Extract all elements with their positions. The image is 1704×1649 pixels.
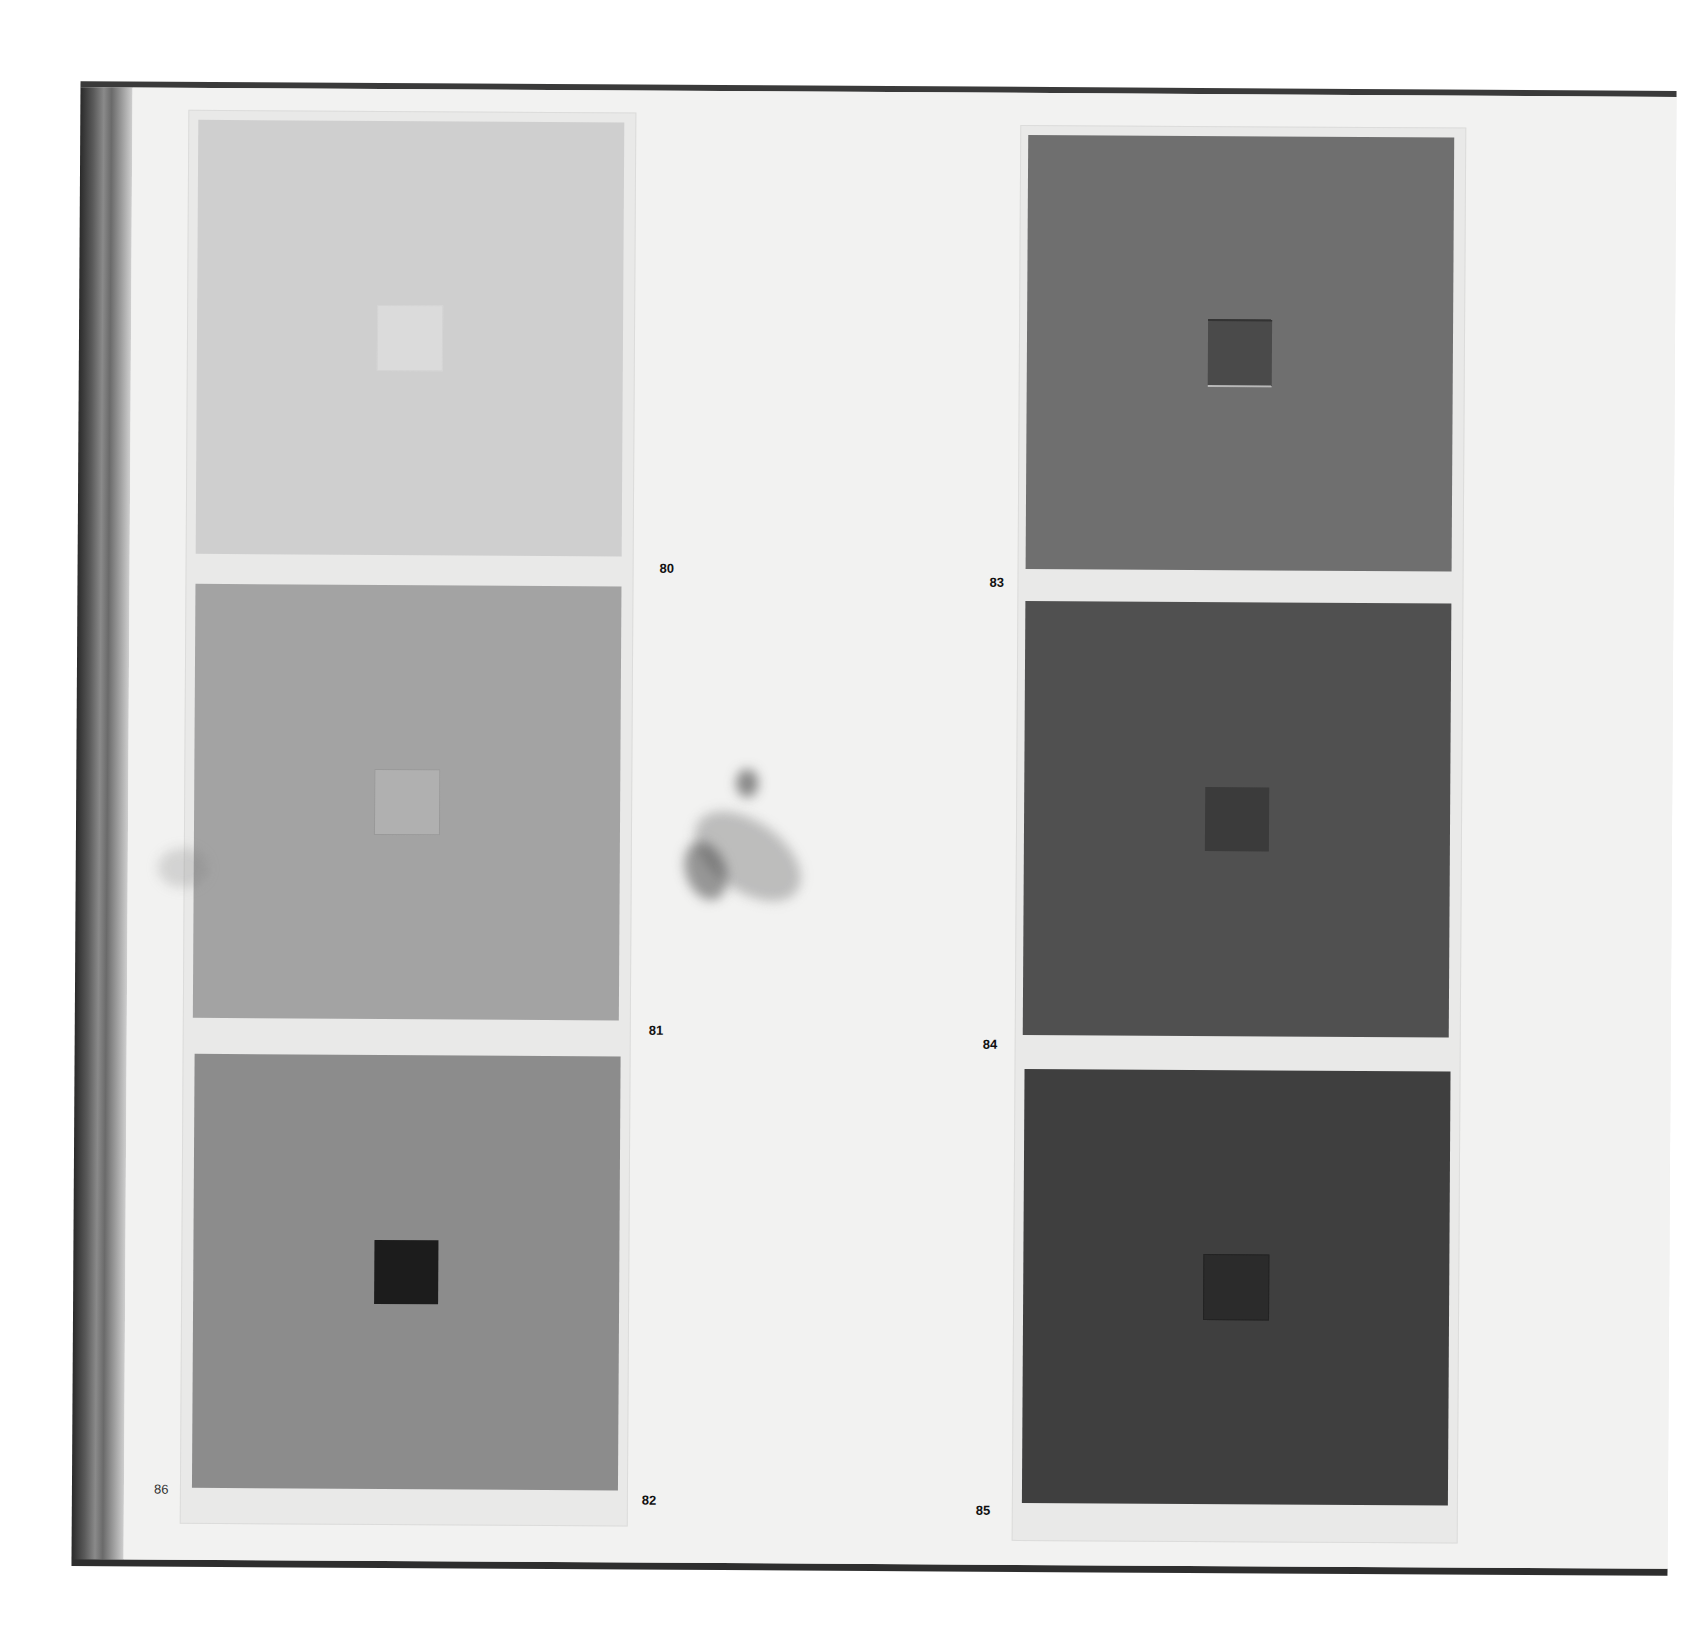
plate-number-81: 81: [649, 1023, 664, 1038]
plate-81: [193, 584, 622, 1021]
page-number: 86: [154, 1482, 169, 1497]
plate-82: [192, 1054, 621, 1491]
book-spine: [72, 87, 133, 1559]
inner-square: [374, 1240, 438, 1304]
inner-square: [374, 769, 440, 835]
ink-smudge: [158, 848, 208, 888]
plate-84: [1023, 601, 1452, 1038]
plate-83: [1026, 135, 1455, 572]
inner-square: [377, 305, 443, 371]
plate-85: [1022, 1069, 1451, 1506]
plate-number-85: 85: [976, 1503, 991, 1518]
inner-square: [1205, 787, 1269, 851]
plate-number-80: 80: [660, 561, 675, 576]
book: 80 81 82 83 84 85 86: [71, 81, 1676, 1576]
plate-number-84: 84: [983, 1037, 998, 1052]
ink-smudge: [736, 769, 758, 797]
inner-square: [1208, 319, 1272, 387]
plate-number-82: 82: [642, 1493, 657, 1508]
plate-number-83: 83: [989, 575, 1004, 590]
inner-square: [1203, 1254, 1269, 1320]
book-page: 80 81 82 83 84 85 86: [124, 87, 1677, 1568]
plate-80: [196, 120, 625, 557]
